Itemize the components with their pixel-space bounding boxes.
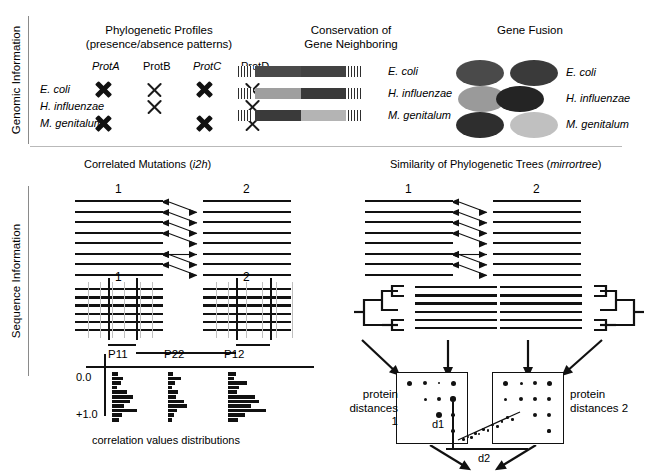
crossline-guide [292, 282, 293, 338]
side-label-sequence: Sequence Information [4, 186, 28, 376]
tree-alignment-line [415, 327, 497, 329]
phylo-row-label: E. coli [40, 83, 70, 95]
histogram-bar [168, 409, 177, 413]
histogram-bar [168, 390, 178, 394]
alignment-sequence-line [75, 253, 163, 255]
correlated-mutations-method: i2h [193, 158, 208, 170]
histogram-bar [228, 372, 236, 376]
histogram-bar [112, 390, 127, 394]
gene-segment [255, 110, 301, 121]
alignment-sequence-line [493, 200, 581, 202]
gene-neighboring-organism: E. coli [388, 65, 418, 77]
histogram-bar [168, 413, 174, 417]
scatter-x-label: d2 [478, 452, 490, 464]
tree-alignment-line [500, 319, 582, 321]
histogram-bar [168, 404, 187, 408]
gene-segment [255, 88, 301, 99]
crossline-main [136, 278, 138, 340]
sequence-rail-line [28, 186, 29, 376]
tree-alignment-line [500, 327, 582, 329]
matrix-dot [423, 381, 427, 385]
matrix-dot [437, 397, 441, 401]
histogram-group-label: P22 [164, 348, 184, 360]
fusion-ellipse-right [510, 112, 558, 138]
matrix-dot [451, 381, 456, 386]
histogram-axis-tick: +1.0 [76, 408, 98, 420]
alignment-sequence-line [75, 242, 163, 244]
histogram-bar [228, 409, 266, 413]
correlation-arrows [163, 198, 203, 288]
alignment-sequence-line [493, 211, 581, 213]
section-divider [30, 146, 622, 147]
histogram-bar [112, 372, 118, 376]
gene-flank-hatch-right [348, 66, 363, 77]
histogram-bar [112, 381, 121, 385]
alignment-label: 2 [243, 182, 250, 196]
histogram-bar [168, 395, 176, 399]
histogram-bar [168, 418, 172, 422]
side-label-genomic: Genomic Information [4, 16, 28, 144]
histogram-bar [112, 377, 123, 381]
tree-alignment-line [415, 302, 497, 304]
crossline-guide [112, 282, 113, 338]
gene-fusion-organism: M. genitalum [566, 118, 629, 130]
panel-title-gene-neighboring: Conservation of Gene Neighboring [286, 24, 416, 51]
matrix-dot [547, 397, 551, 401]
protein-distance-label: protein distances 1 [340, 388, 398, 429]
correlated-mutations-title-text: Correlated Mutations ( [84, 158, 193, 170]
gene-fusion-organism: E. coli [566, 66, 596, 78]
protein-distance-label: protein distances 2 [570, 388, 630, 415]
tree-alignment-line [500, 286, 582, 288]
histogram-bar [168, 377, 181, 381]
histogram-bar [112, 409, 137, 413]
alignment-sequence-line [75, 211, 163, 213]
tree-alignment-line [415, 311, 497, 313]
tree-alignment-line [500, 302, 582, 304]
panel-title-gene-fusion: Gene Fusion [470, 24, 590, 38]
matrix-dot [438, 382, 441, 385]
crossline-guide [228, 282, 229, 338]
gene-segment [301, 88, 346, 99]
crossline-main [108, 278, 110, 340]
alignment-sequence-line [75, 221, 163, 223]
crossline-main [270, 278, 272, 340]
genomic-rail-line [28, 16, 29, 144]
alignment-sequence-line [75, 263, 163, 265]
alignment-sequence-line [493, 253, 581, 255]
histogram-bar [112, 395, 133, 399]
phylo-mark-thin [141, 94, 167, 120]
phylo-mark-bold [191, 111, 217, 137]
crossline-bracket [136, 352, 236, 354]
fusion-ellipse-right [496, 86, 544, 112]
phylo-mark-bold [191, 77, 217, 103]
histogram-bar [168, 372, 173, 376]
panel-title-phylogenetic-trees: Similarity of Phylogenetic Trees (mirror… [390, 158, 602, 170]
matrix-dot [533, 397, 537, 401]
gene-flank-hatch-right [348, 88, 363, 99]
gene-segment [301, 66, 346, 77]
phylo-column-header: ProtA [92, 60, 120, 72]
tree-alignment-line [500, 294, 582, 296]
histogram-bar [228, 377, 234, 381]
crossline-guide [100, 282, 101, 338]
panel-title-correlated-mutations: Correlated Mutations (i2h) [84, 158, 211, 170]
alignment-sequence-line [365, 274, 453, 276]
fusion-ellipse-right [510, 60, 558, 86]
alignment-sequence-line [203, 263, 291, 265]
phylo-column-header: ProtC [193, 60, 221, 72]
correlation-arrows [453, 198, 493, 288]
phylogenetic-trees-title-end: ) [598, 158, 602, 170]
histogram-group-label: P12 [224, 348, 244, 360]
alignment-sequence-line [203, 211, 291, 213]
crossline-guide [276, 282, 277, 338]
tree-alignment-line [415, 319, 497, 321]
alignment-sequence-line [365, 242, 453, 244]
alignment-sequence-line [365, 263, 453, 265]
histogram-bar [228, 390, 237, 394]
histogram-bar [112, 413, 122, 417]
alignment-sequence-line [203, 242, 291, 244]
alignment-sequence-line [493, 242, 581, 244]
histogram-bar [228, 400, 259, 404]
crosslines-label: 1 [115, 270, 122, 284]
